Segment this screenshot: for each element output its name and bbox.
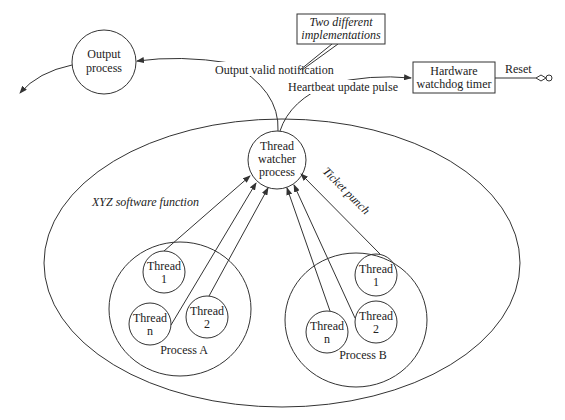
process-b-thread-n: Thread n (306, 311, 348, 353)
diagram-canvas: XYZ software function Output process Thr… (0, 0, 565, 420)
thread-watcher-line3: process (259, 165, 295, 179)
process-a-thread-1: Thread 1 (143, 251, 185, 293)
ticket-b-thread-2 (294, 185, 355, 318)
process-b-thread-1: Thread 1 (355, 254, 397, 296)
output-valid-label: Output valid notification (215, 63, 334, 77)
heartbeat-label: Heartbeat update pulse (288, 80, 398, 94)
process-b-thread-n-line2: n (324, 332, 330, 346)
reset-label: Reset (505, 62, 532, 76)
process-b-thread-1-line2: 1 (373, 275, 379, 289)
thread-watcher-node: Thread watcher process (248, 131, 306, 189)
reset-terminal-icon (536, 75, 552, 81)
process-b-thread-1-line1: Thread (359, 262, 393, 276)
process-b-thread-n-line1: Thread (310, 319, 344, 333)
process-a-thread-1-line2: 1 (161, 272, 167, 286)
process-a-thread-n-line2: n (147, 324, 153, 338)
callout-line1: Two different (310, 15, 374, 29)
ticket-punch-label: Ticket punch (320, 164, 373, 217)
thread-watcher-line1: Thread (260, 139, 294, 153)
process-b-thread-2-line1: Thread (359, 309, 393, 323)
output-process-line2: process (86, 61, 122, 75)
implementations-callout: Two different implementations (297, 14, 385, 44)
hardware-watchdog-line2: watchdog timer (417, 77, 492, 91)
output-arrow (20, 65, 72, 93)
process-a-thread-n-line1: Thread (133, 311, 167, 325)
ticket-a-thread-1 (164, 176, 250, 251)
process-a-thread-2: Thread 2 (186, 296, 228, 338)
process-a-thread-2-line1: Thread (190, 304, 224, 318)
process-a-label: Process A (160, 343, 208, 357)
process-b-thread-2: Thread 2 (355, 301, 397, 343)
process-a-thread-n: Thread n (129, 303, 171, 345)
process-b-node: Process B (285, 253, 427, 387)
callout-line2: implementations (301, 28, 381, 42)
software-function-label: XYZ software function (91, 195, 199, 209)
thread-watcher-line2: watcher (258, 152, 296, 166)
hardware-watchdog-line1: Hardware (430, 64, 477, 78)
output-process-node: Output process (72, 30, 136, 94)
hardware-watchdog-node: Hardware watchdog timer (413, 62, 495, 93)
process-a-thread-2-line2: 2 (204, 317, 210, 331)
process-b-thread-2-line2: 2 (373, 322, 379, 336)
process-a-thread-1-line1: Thread (147, 259, 181, 273)
output-process-line1: Output (87, 47, 121, 61)
process-b-label: Process B (339, 348, 387, 362)
